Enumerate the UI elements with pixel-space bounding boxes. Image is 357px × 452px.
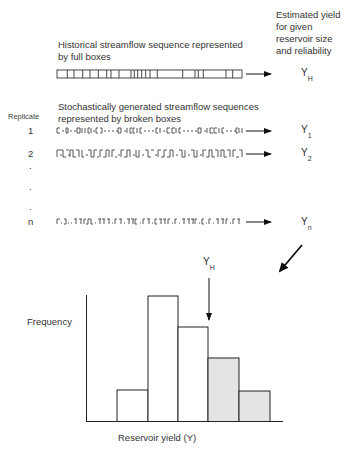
replicate-sequence-1-ext	[163, 128, 242, 133]
replicate-sequence-1	[57, 128, 160, 133]
histogram-bar-5-shaded	[239, 391, 270, 422]
histogram-bar-3	[178, 327, 208, 422]
marker-subscript: H	[210, 264, 215, 271]
x-axis-label: Reservoir yield (Y)	[118, 432, 196, 444]
histogram-marker-label: YH	[203, 256, 215, 269]
replicate-sequence-2	[57, 150, 242, 157]
marker-symbol: Y	[203, 256, 210, 267]
histogram-bar-4-shaded	[208, 358, 239, 422]
histogram-bar-2	[148, 296, 178, 422]
historical-sequence	[57, 70, 242, 78]
arrow-down-left-icon	[280, 245, 302, 271]
y-axis-label: Frequency	[27, 316, 72, 328]
histogram-bar-1	[117, 390, 148, 422]
diagram-graphics	[0, 0, 357, 452]
replicate-sequence-n	[57, 219, 240, 224]
histogram	[86, 295, 283, 422]
